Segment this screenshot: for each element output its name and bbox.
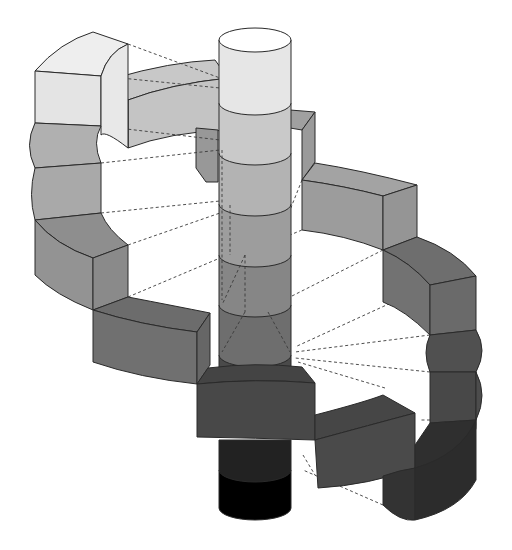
helix-block-5 [197,365,315,440]
helix-block-6 [302,163,417,250]
helix-block-8 [426,330,482,423]
helix-block-4 [93,297,210,384]
helix-block-3 [35,213,128,310]
central-cylinder [219,28,291,520]
helix-diagram [0,0,512,550]
helix-diagram-svg [0,0,512,550]
helix-block-7 [383,237,476,335]
helix-block-2 [30,123,102,220]
